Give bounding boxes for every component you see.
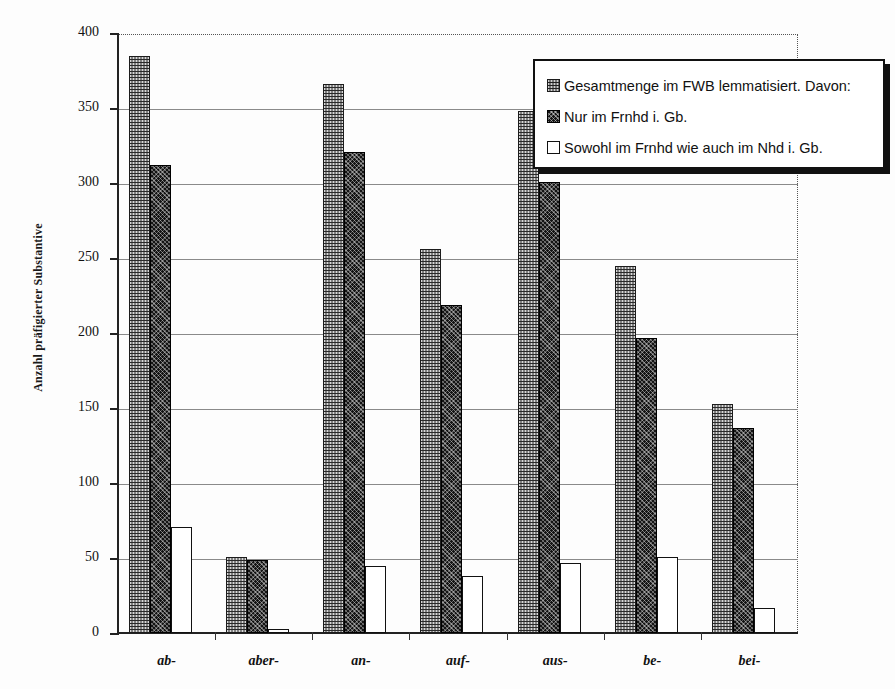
bar[interactable] xyxy=(226,557,247,634)
bar[interactable] xyxy=(657,557,678,634)
legend-item[interactable]: Sowohl im Frnhd wie auch im Nhd i. Gb. xyxy=(547,132,877,163)
y-axis-tick-label: 350 xyxy=(78,99,99,115)
y-axis-tick-label: 200 xyxy=(78,324,99,340)
y-axis-tick-label: 50 xyxy=(85,549,99,565)
bar-group: auf- xyxy=(409,33,506,633)
white-outline-swatch-icon xyxy=(547,141,560,154)
chart-legend: Gesamtmenge im FWB lemmatisiert. Davon: … xyxy=(533,59,885,169)
y-axis-tick-label: 300 xyxy=(78,174,99,190)
y-axis-tick-label: 150 xyxy=(78,399,99,415)
bar-group: ab- xyxy=(118,33,215,633)
legend-item[interactable]: Gesamtmenge im FWB lemmatisiert. Davon: xyxy=(547,70,877,101)
legend-item-label: Nur im Frnhd i. Gb. xyxy=(564,109,687,125)
x-axis-tick xyxy=(604,632,605,640)
bar[interactable] xyxy=(420,249,441,633)
bar[interactable] xyxy=(344,152,365,634)
chart-figure: Anzahl präfigierter Substantive 05010015… xyxy=(0,0,895,689)
bar[interactable] xyxy=(539,182,560,634)
x-axis-category-label: bei- xyxy=(701,653,798,669)
x-axis-tick xyxy=(409,632,410,640)
bar[interactable] xyxy=(150,165,171,633)
bar[interactable] xyxy=(171,527,192,634)
bar-group: an- xyxy=(312,33,409,633)
y-axis-tick: 0 xyxy=(110,633,119,635)
x-axis-tick xyxy=(312,632,313,640)
x-axis-tick xyxy=(507,632,508,640)
x-axis-tick xyxy=(701,632,702,640)
y-axis-tick-label: 250 xyxy=(78,249,99,265)
dark-crosshatch-swatch-icon xyxy=(547,110,560,123)
bar[interactable] xyxy=(636,338,657,634)
bar[interactable] xyxy=(247,560,268,634)
bar[interactable] xyxy=(754,608,775,634)
light-checker-swatch-icon xyxy=(547,79,560,92)
bar[interactable] xyxy=(365,566,386,634)
bar[interactable] xyxy=(712,404,733,634)
legend-item-label: Gesamtmenge im FWB lemmatisiert. Davon: xyxy=(564,78,851,94)
bar[interactable] xyxy=(560,563,581,634)
bar[interactable] xyxy=(268,629,289,634)
x-axis-category-label: aus- xyxy=(507,653,604,669)
y-axis-title: Anzahl präfigierter Substantive xyxy=(31,178,46,438)
y-axis-tick-label: 0 xyxy=(92,624,99,640)
bar-group: aber- xyxy=(215,33,312,633)
y-axis-tick-label: 100 xyxy=(78,474,99,490)
bar[interactable] xyxy=(615,266,636,634)
bar[interactable] xyxy=(462,576,483,633)
x-axis-category-label: be- xyxy=(604,653,701,669)
x-axis-category-label: aber- xyxy=(215,653,312,669)
bar[interactable] xyxy=(441,305,462,634)
legend-item[interactable]: Nur im Frnhd i. Gb. xyxy=(547,101,877,132)
bar[interactable] xyxy=(518,111,539,633)
bar[interactable] xyxy=(733,428,754,634)
bar[interactable] xyxy=(323,84,344,633)
y-axis-tick-label: 400 xyxy=(78,24,99,40)
legend-item-label: Sowohl im Frnhd wie auch im Nhd i. Gb. xyxy=(564,140,823,156)
x-axis-tick xyxy=(215,632,216,640)
x-axis-category-label: an- xyxy=(312,653,409,669)
x-axis-category-label: auf- xyxy=(409,653,506,669)
x-axis-category-label: ab- xyxy=(118,653,215,669)
bar[interactable] xyxy=(129,56,150,634)
